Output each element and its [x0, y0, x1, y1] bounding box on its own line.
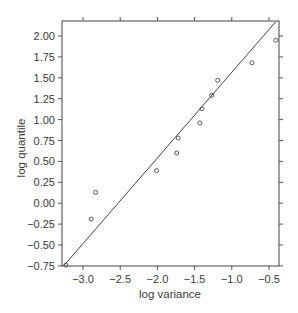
- x-tick-label: −0.5: [258, 273, 280, 285]
- y-tick-label: 1.50: [34, 72, 55, 84]
- data-point: [250, 61, 254, 65]
- y-tick-label: 0.75: [34, 135, 55, 147]
- y-tick-label: 0.50: [34, 155, 55, 167]
- y-tick-label: −0.25: [27, 218, 55, 230]
- data-point: [198, 121, 202, 125]
- y-tick-label: 0.25: [34, 176, 55, 188]
- qq-plot: −3.0−2.5−2.0−1.5−1.0−0.5 2.001.751.501.2…: [0, 0, 298, 313]
- y-tick-label: −0.75: [27, 260, 55, 272]
- data-point: [89, 217, 93, 221]
- y-tick-label: 0.00: [34, 197, 55, 209]
- y-axis-label: log quantile: [15, 119, 27, 178]
- data-point: [216, 78, 220, 82]
- y-tick-label: 1.75: [34, 51, 55, 63]
- data-point: [175, 151, 179, 155]
- y-tick-label: 1.00: [34, 114, 55, 126]
- data-point: [155, 169, 159, 173]
- x-tick-label: −3.0: [72, 273, 94, 285]
- x-axis-label: log variance: [139, 288, 201, 300]
- x-tick-label: −2.0: [147, 273, 169, 285]
- y-tick-label: 2.00: [34, 30, 55, 42]
- data-point: [94, 190, 98, 194]
- reference-line: [64, 22, 276, 266]
- y-axis-ticks: 2.001.751.501.251.000.750.500.250.00−0.2…: [27, 30, 283, 272]
- reference-line-path: [64, 22, 276, 266]
- y-tick-label: −0.50: [27, 239, 55, 251]
- x-tick-label: −2.5: [109, 273, 131, 285]
- x-tick-label: −1.5: [184, 273, 206, 285]
- data-point: [176, 136, 180, 140]
- y-tick-label: 1.25: [34, 93, 55, 105]
- data-points: [64, 38, 278, 267]
- x-tick-label: −1.0: [221, 273, 243, 285]
- data-point: [274, 38, 278, 42]
